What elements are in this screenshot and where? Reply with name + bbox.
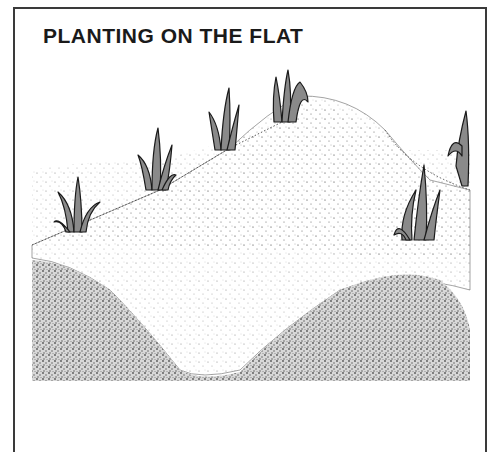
plant-center [209,88,239,150]
illustration-title: PLANTING ON THE FLAT [43,24,303,48]
